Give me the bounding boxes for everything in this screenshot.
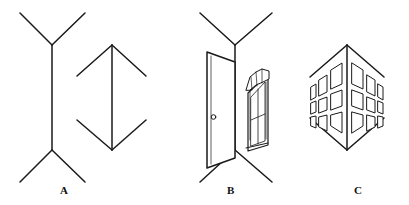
window-left-r2-c2 [319,97,327,113]
window-right-r2-c1 [352,90,363,110]
fin-top-right [52,13,85,45]
figure-root: A B C [0,0,409,205]
fin-top-left [20,13,52,45]
outward-fins-line [20,13,85,182]
fin-top-right-inward [112,45,146,76]
window-right-r1-c1 [352,63,363,89]
window-right-r2-c2 [367,97,375,113]
window-left-r3-c2 [319,115,327,131]
panel-a-muller-lyer [20,13,146,182]
ceiling-line-right [235,13,272,45]
fin-bottom-left-inward [77,120,112,150]
window-grid-right-face [352,63,383,133]
window-left-r1-c2 [319,75,327,96]
floor-line-right [235,150,272,182]
fin-bottom-right-inward [112,120,146,150]
window-right-r3-c1 [352,112,363,133]
window-right-r1-c3 [378,84,383,100]
panel-c-building-corner [310,45,384,150]
panel-b-room-corner [200,13,272,182]
door [207,52,235,168]
window-right-r2-c3 [378,101,383,114]
window-left-r3-c3 [311,116,316,128]
window-right-r3-c2 [367,115,375,131]
panel-label-c: C [354,185,362,196]
window-left-r2-c1 [331,90,342,110]
building-corner-edge [310,45,384,150]
window-left-r1-c3 [311,84,316,100]
window-grid-left-face [311,63,342,133]
window-with-curtains [246,69,269,151]
window-left-r2-c3 [311,101,316,114]
ceiling-line-left [200,13,235,45]
window-right-r1-c2 [367,75,375,96]
fin-top-left-inward [77,45,112,76]
inward-fins-line [77,45,146,150]
window-right-r3-c3 [378,116,383,128]
panel-label-b: B [227,185,234,196]
fin-bottom-right [52,150,85,182]
window-left-r3-c1 [331,112,342,133]
fin-bottom-left [20,150,52,182]
illusion-diagram [0,0,409,205]
panel-label-a: A [60,185,68,196]
window-left-r1-c1 [331,63,342,89]
